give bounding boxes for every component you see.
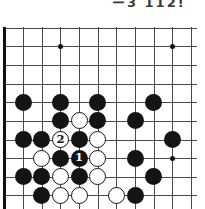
black-stone — [127, 187, 144, 204]
black-stone — [52, 112, 69, 129]
black-stone — [71, 131, 88, 148]
black-stone — [52, 94, 69, 111]
grid-hline — [3, 65, 197, 66]
black-stone — [145, 94, 162, 111]
star-point — [58, 44, 63, 49]
black-stone — [15, 131, 32, 148]
grid-hline — [3, 46, 197, 47]
white-stone — [52, 187, 69, 204]
white-stone — [89, 131, 106, 148]
black-stone — [33, 187, 50, 204]
black-stone — [89, 112, 106, 129]
black-stone — [145, 168, 162, 185]
star-point — [170, 44, 175, 49]
grid-vline — [116, 27, 117, 209]
grid-hline — [3, 195, 197, 196]
board-edge-line — [3, 27, 6, 209]
black-stone-move-1: 1 — [71, 150, 88, 167]
grid-hline — [3, 28, 197, 29]
grid-vline — [172, 27, 173, 209]
grid-vline — [191, 27, 192, 209]
black-stone — [127, 112, 144, 129]
grid-hline — [3, 84, 197, 85]
white-stone — [52, 168, 69, 185]
black-stone — [127, 150, 144, 167]
white-stone-move-2: 2 — [52, 131, 69, 148]
white-stone — [71, 187, 88, 204]
white-stone — [89, 168, 106, 185]
black-stone — [15, 168, 32, 185]
black-stone — [52, 150, 69, 167]
stone-move-number: 1 — [75, 152, 83, 164]
white-stone — [89, 150, 106, 167]
black-stone — [89, 94, 106, 111]
go-diagram-page: ー3 112! 21 — [0, 0, 205, 209]
stone-move-number: 2 — [56, 134, 64, 146]
white-stone — [108, 187, 125, 204]
caption-text: ー3 112! — [112, 0, 186, 7]
cropped-caption-fragment: ー3 112! — [112, 0, 205, 7]
black-stone — [15, 94, 32, 111]
black-stone — [33, 131, 50, 148]
white-stone — [71, 112, 88, 129]
black-stone — [71, 168, 88, 185]
white-stone — [33, 150, 50, 167]
black-stone — [33, 168, 50, 185]
star-point — [170, 156, 175, 161]
black-stone — [164, 131, 181, 148]
